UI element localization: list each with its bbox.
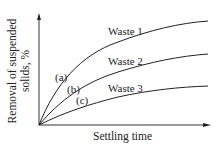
y-axis-label: Removal of suspended solids, % xyxy=(6,16,32,126)
x-axis-label: Settling time xyxy=(93,131,152,143)
x-axis xyxy=(39,123,211,127)
legend-waste-3: Waste 3 xyxy=(108,83,143,94)
y-axis-label-line1: Removal of suspended xyxy=(6,16,19,126)
y-axis xyxy=(37,13,41,125)
chart-canvas xyxy=(0,0,222,146)
marker-c: (c) xyxy=(76,95,88,106)
legend-waste-2: Waste 2 xyxy=(108,56,143,67)
y-axis-label-line2: solids, % xyxy=(19,16,32,126)
legend-waste-1: Waste 1 xyxy=(108,26,143,37)
marker-a: (a) xyxy=(55,72,67,83)
